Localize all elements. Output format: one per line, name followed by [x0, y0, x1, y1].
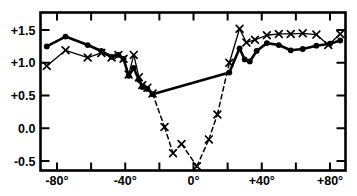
series-segment — [291, 33, 303, 34]
y-tick-label: +1.5 — [11, 24, 36, 38]
x-tick-label: -80° — [45, 174, 68, 188]
data-point-circle — [264, 40, 270, 46]
x-tick-label: +40° — [249, 174, 275, 188]
data-point-circle — [131, 65, 137, 71]
data-point-circle — [254, 48, 260, 54]
x-tick-label: 0° — [188, 174, 200, 188]
data-point-circle — [288, 47, 294, 53]
chart-background — [0, 0, 357, 196]
scatter-line-chart: -0.50.0+0.5+1.0+1.5 -80°-40°0°+40°+80° — [0, 0, 357, 196]
data-point-circle — [300, 46, 306, 52]
y-tick-label: -0.5 — [14, 155, 36, 169]
data-point-circle — [313, 43, 319, 49]
y-tick-label: +0.5 — [11, 89, 36, 103]
y-tick-label: 0.0 — [18, 122, 35, 136]
data-point-circle — [85, 42, 91, 48]
data-point-circle — [63, 34, 69, 40]
x-tick-label: -40° — [114, 174, 137, 188]
data-point-circle — [337, 38, 343, 44]
data-point-circle — [276, 42, 282, 48]
x-tick-label: +80° — [317, 174, 343, 188]
data-point-circle — [242, 57, 248, 63]
data-point-circle — [44, 43, 50, 49]
data-point-circle — [237, 45, 243, 51]
data-point-circle — [247, 59, 253, 65]
y-tick-label: +1.0 — [11, 56, 36, 70]
data-point-circle — [226, 70, 232, 76]
